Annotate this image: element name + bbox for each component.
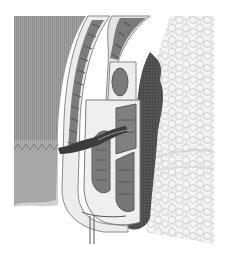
upper-compartment (108, 62, 136, 100)
anal-canal-cross-section (0, 0, 228, 258)
anatomy-illustration (0, 0, 228, 258)
lower-sphincter-loop (84, 100, 140, 225)
